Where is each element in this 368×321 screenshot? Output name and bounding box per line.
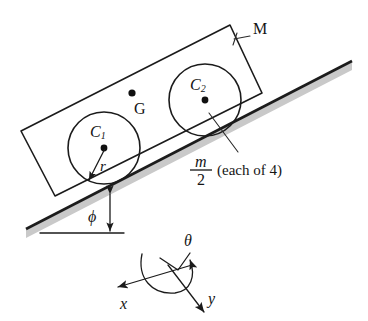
y-axis-label: y xyxy=(206,290,216,308)
incline-surface-line xyxy=(26,61,352,229)
wheel-mass-denominator: 2 xyxy=(197,171,205,188)
x-axis-label: x xyxy=(119,295,127,312)
cart-on-incline-diagram: C1 r C2 G M m 2 (each xyxy=(0,0,368,321)
wheel-2: C2 xyxy=(169,64,241,136)
wheel-2-label: C2 xyxy=(190,76,206,95)
incline-shadow-band xyxy=(26,62,352,238)
coordinate-axes: x y θ xyxy=(118,232,216,312)
theta-label: θ xyxy=(184,232,192,249)
incline-angle-label: ϕ xyxy=(88,208,96,226)
x-axis-arrow xyxy=(118,265,192,287)
wheel-1-label: C1 xyxy=(90,123,106,142)
center-of-gravity-dot xyxy=(128,89,135,96)
inclined-plane xyxy=(26,61,352,238)
center-of-gravity-label: G xyxy=(134,100,146,117)
body-mass-label: M xyxy=(253,20,267,37)
radius-label: r xyxy=(100,158,106,174)
wheel-mass-note: (each of 4) xyxy=(217,162,282,179)
wheel-2-center-dot xyxy=(202,97,209,104)
figure-canvas: C1 r C2 G M m 2 (each xyxy=(0,0,368,321)
center-of-gravity-marker: G xyxy=(128,89,146,116)
wheel-mass-numerator: m xyxy=(195,153,207,170)
wheel-1: C1 r xyxy=(68,112,140,184)
